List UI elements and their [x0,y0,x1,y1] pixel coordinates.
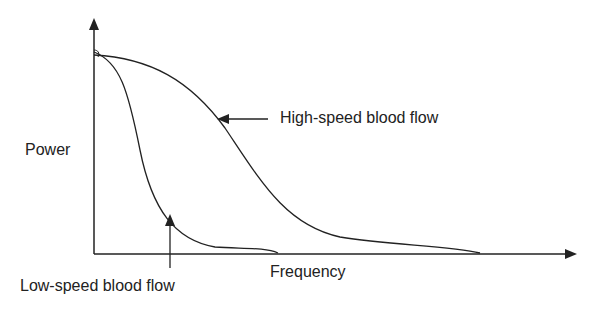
x-axis-label: Frequency [270,263,346,281]
low-speed-arrowhead [165,214,175,226]
high-speed-curve [94,55,480,253]
low-speed-label: Low-speed blood flow [20,277,175,295]
low-speed-curve [94,52,278,253]
high-speed-arrowhead [217,114,229,124]
y-axis-label: Power [25,141,70,159]
x-axis-arrowhead [565,249,577,259]
high-speed-label: High-speed blood flow [280,109,438,127]
y-axis-arrowhead [89,18,99,30]
